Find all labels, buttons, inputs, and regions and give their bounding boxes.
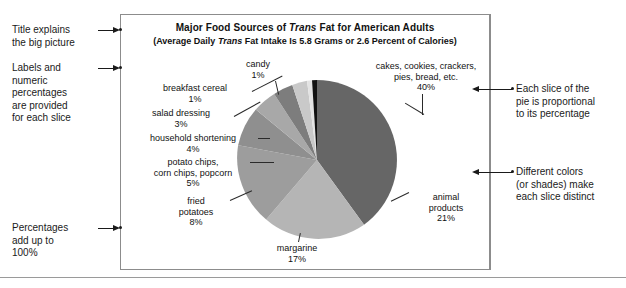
slice-label-shortening-line2: 4% (128, 144, 258, 155)
annotation-title-note-line1: Title explains (12, 24, 112, 37)
annotation-dot-proportional (511, 87, 514, 90)
chart-title: Major Food Sources of Trans Fat for Amer… (121, 22, 489, 34)
slice-label-fried-line2: potatoes (165, 207, 227, 218)
slice-label-cakes-line1: cakes, cookies, crackers, (357, 61, 495, 72)
annotation-arrow-title (98, 30, 114, 31)
chart-title-post: Fat for American Adults (317, 22, 435, 33)
annotation-title-note: Title explains the big picture (12, 24, 112, 49)
annotation-labels-note: Labels and numeric percentages are provi… (12, 62, 112, 125)
annotation-percent-note-line2: add up to (12, 235, 112, 248)
annotation-percent-note: Percentages add up to 100% (12, 222, 112, 260)
chart-subtitle-post: Fat Intake Is 5.8 Grams or 2.6 Percent o… (242, 36, 457, 46)
slice-label-salad-dressing: salad dressing 3% (129, 108, 233, 129)
annotation-dot-percent (119, 226, 122, 229)
annotation-labels-note-line3: percentages (12, 87, 112, 100)
annotation-arrow-colors (478, 172, 512, 173)
annotation-arrow-proportional (478, 89, 512, 90)
slice-label-breakfast-cereal: breakfast cereal 1% (137, 83, 253, 104)
chart-title-pre: Major Food Sources of (176, 22, 289, 33)
slice-label-cereal-line2: 1% (137, 94, 253, 105)
annotation-proportional-note: Each slice of the pie is proportional to… (516, 83, 622, 121)
annotation-labels-note-line4: are provided (12, 100, 112, 113)
slice-label-shortening-line1: household shortening (128, 133, 258, 144)
slice-label-potato-chips: potato chips, corn chips, popcorn 5% (137, 157, 249, 189)
annotation-arrow-labels (98, 68, 114, 69)
chart-subtitle: (Average Daily Trans Fat Intake Is 5.8 G… (121, 36, 489, 47)
slice-label-animal-products: animal products 21% (409, 192, 483, 224)
annotation-labels-note-line5: for each slice (12, 112, 112, 125)
annotation-percent-note-line1: Percentages (12, 222, 112, 235)
slice-label-animal-line3: 21% (409, 213, 483, 224)
leader-potato-chips (250, 162, 274, 163)
slice-label-candy: candy 1% (228, 59, 288, 80)
chart-subtitle-italic: Trans (218, 36, 242, 46)
annotation-colors-line1: Different colors (516, 166, 622, 179)
pie-chart (237, 80, 397, 240)
figure-page: Major Food Sources of Trans Fat for Amer… (0, 0, 626, 288)
slice-label-fried-line1: fried (165, 196, 227, 207)
annotation-colors-note: Different colors (or shades) make each s… (516, 166, 622, 204)
slice-label-chips-line1: potato chips, (137, 157, 249, 168)
annotation-dot-labels (119, 66, 122, 69)
annotation-title-note-line2: the big picture (12, 37, 112, 50)
slice-label-margarine: margarine 17% (255, 243, 339, 264)
slice-label-household-shortening: household shortening 4% (128, 133, 258, 154)
slice-label-margarine-line2: 17% (255, 254, 339, 265)
slice-label-salad-line1: salad dressing (129, 108, 233, 119)
slice-label-candy-line1: candy (228, 59, 288, 70)
annotation-labels-note-line2: numeric (12, 75, 112, 88)
annotation-colors-line3: each slice distinct (516, 191, 622, 204)
slice-label-chips-line3: 5% (137, 178, 249, 189)
slice-label-fried-line3: 8% (165, 217, 227, 228)
annotation-proportional-line2: pie is proportional (516, 96, 622, 109)
annotation-colors-line2: (or shades) make (516, 179, 622, 192)
slice-label-fried-potatoes: fried potatoes 8% (165, 196, 227, 228)
chart-subtitle-pre: (Average Daily (153, 36, 218, 46)
slice-label-cereal-line1: breakfast cereal (137, 83, 253, 94)
page-bottom-rule (0, 277, 626, 278)
annotation-percent-note-line3: 100% (12, 247, 112, 260)
annotation-dot-title (119, 28, 122, 31)
pie-svg (237, 80, 397, 240)
annotation-proportional-line1: Each slice of the (516, 83, 622, 96)
slice-label-margarine-line1: margarine (255, 243, 339, 254)
annotation-dot-colors (511, 170, 514, 173)
leader-household-shortening (258, 138, 270, 139)
chart-title-italic: Trans (289, 22, 317, 33)
slice-label-salad-line2: 3% (129, 119, 233, 130)
annotation-labels-note-line1: Labels and (12, 62, 112, 75)
slice-label-candy-line2: 1% (228, 70, 288, 81)
slice-label-animal-line2: products (409, 203, 483, 214)
slice-label-animal-line1: animal (409, 192, 483, 203)
slice-label-cakes-line2: pies, bread, etc. (357, 72, 495, 83)
annotation-proportional-line3: to its percentage (516, 108, 622, 121)
annotation-right-rule (490, 14, 491, 270)
slice-label-chips-line2: corn chips, popcorn (137, 168, 249, 179)
annotation-arrow-percent (98, 228, 114, 229)
